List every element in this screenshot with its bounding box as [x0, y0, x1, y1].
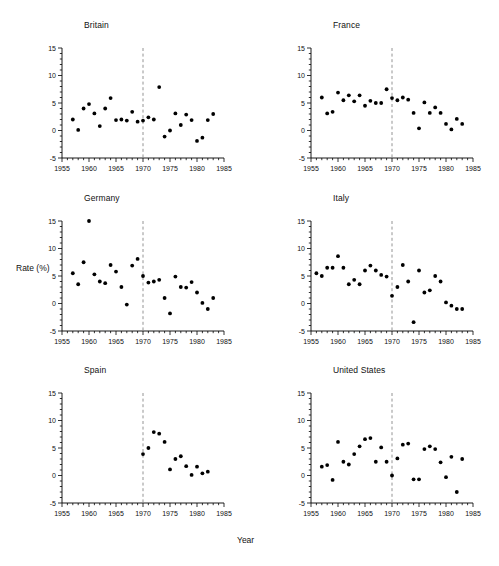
- y-tick-label: -5: [50, 500, 56, 507]
- data-point: [347, 282, 351, 286]
- data-point: [358, 282, 362, 286]
- data-point: [174, 275, 178, 279]
- data-point: [103, 281, 107, 285]
- y-tick-label: 0: [301, 472, 305, 479]
- data-point: [428, 288, 432, 292]
- data-point: [406, 280, 410, 284]
- data-point: [98, 280, 102, 284]
- data-point: [396, 285, 400, 289]
- data-point: [184, 464, 188, 468]
- data-point: [179, 454, 183, 458]
- x-tick-label: 1965: [357, 165, 373, 172]
- data-point: [190, 280, 194, 284]
- data-point: [417, 126, 421, 130]
- y-tick-label: 0: [301, 127, 305, 134]
- x-tick-label: 1970: [384, 165, 400, 172]
- data-point: [152, 118, 156, 122]
- data-point: [390, 294, 394, 298]
- data-point: [71, 271, 75, 275]
- y-tick-label: 15: [297, 390, 305, 397]
- figure-panel-grid: Rate (%) Year -5051015195519601965197019…: [0, 0, 499, 566]
- data-point: [406, 442, 410, 446]
- y-tick-label: -5: [299, 500, 305, 507]
- data-point: [450, 127, 454, 131]
- data-point: [390, 96, 394, 100]
- data-point: [460, 457, 464, 461]
- x-tick-label: 1965: [357, 510, 373, 517]
- data-point: [417, 477, 421, 481]
- x-tick-label: 1960: [81, 510, 97, 517]
- x-tick-label: 1960: [81, 165, 97, 172]
- x-tick-label: 1955: [54, 165, 70, 172]
- y-tick-label: -5: [299, 155, 305, 162]
- plot-italy: -50510151955196019651970197519801985: [297, 218, 481, 345]
- data-point: [444, 475, 448, 479]
- y-tick-label: 15: [297, 218, 305, 225]
- data-point: [379, 446, 383, 450]
- data-point: [157, 278, 161, 282]
- x-tick-label: 1980: [438, 510, 454, 517]
- y-tick-label: 15: [48, 45, 56, 52]
- data-point: [331, 478, 335, 482]
- panel-title: Spain: [84, 365, 106, 375]
- data-point: [363, 104, 367, 108]
- data-point: [147, 115, 151, 119]
- y-tick-label: 0: [52, 300, 56, 307]
- data-point: [433, 106, 437, 110]
- x-tick-label: 1955: [54, 510, 70, 517]
- data-point: [450, 304, 454, 308]
- x-tick-label: 1985: [465, 510, 481, 517]
- data-point: [444, 301, 448, 305]
- panel-title: Italy: [333, 193, 349, 203]
- plot-britain: -50510151955196019651970197519801985: [48, 45, 232, 172]
- x-tick-label: 1975: [411, 165, 427, 172]
- data-point: [336, 91, 340, 95]
- data-point: [179, 123, 183, 127]
- data-point: [352, 278, 356, 282]
- x-tick-label: 1965: [108, 165, 124, 172]
- data-point: [130, 264, 134, 268]
- plot-spain: -50510151955196019651970197519801985: [48, 390, 232, 517]
- data-point: [325, 112, 329, 116]
- x-tick-label: 1970: [135, 338, 151, 345]
- y-tick-label: -5: [299, 328, 305, 335]
- y-tick-label: 0: [52, 127, 56, 134]
- y-tick-label: 10: [297, 417, 305, 424]
- data-point: [423, 447, 427, 451]
- x-tick-label: 1955: [54, 338, 70, 345]
- x-tick-label: 1985: [465, 165, 481, 172]
- data-point: [93, 272, 97, 276]
- data-point: [336, 440, 340, 444]
- data-point: [379, 273, 383, 277]
- x-tick-label: 1970: [135, 510, 151, 517]
- data-point: [352, 99, 356, 103]
- data-point: [103, 107, 107, 111]
- data-point: [320, 274, 324, 278]
- data-point: [428, 111, 432, 115]
- data-point: [342, 266, 346, 270]
- data-point: [109, 96, 113, 100]
- data-point: [93, 112, 97, 116]
- data-point: [120, 118, 124, 122]
- y-tick-label: 10: [48, 417, 56, 424]
- data-point: [195, 291, 199, 295]
- data-point: [152, 280, 156, 284]
- y-tick-label: -5: [50, 328, 56, 335]
- data-point: [190, 118, 194, 122]
- y-tick-label: 0: [301, 300, 305, 307]
- data-point: [369, 264, 373, 268]
- data-point: [439, 280, 443, 284]
- x-tick-label: 1985: [216, 338, 232, 345]
- data-point: [125, 119, 129, 123]
- x-tick-label: 1965: [108, 510, 124, 517]
- data-point: [157, 85, 161, 89]
- data-point: [379, 101, 383, 105]
- x-tick-label: 1965: [108, 338, 124, 345]
- data-point: [320, 465, 324, 469]
- x-tick-label: 1960: [330, 338, 346, 345]
- y-tick-label: 5: [301, 445, 305, 452]
- data-point: [315, 271, 319, 275]
- data-point: [331, 266, 335, 270]
- x-tick-label: 1960: [81, 338, 97, 345]
- data-point: [114, 118, 118, 122]
